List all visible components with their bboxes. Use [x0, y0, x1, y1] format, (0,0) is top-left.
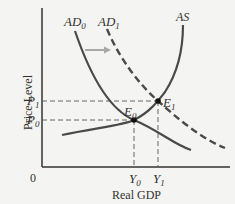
y-axis-label: Price Level: [21, 63, 36, 143]
shift-arrow: [85, 47, 111, 54]
guide-lines: [42, 101, 158, 167]
e1-label: E1: [163, 96, 175, 112]
ad0-label: AD0: [64, 15, 86, 31]
e0-label: E0: [124, 105, 136, 121]
y1-label: Y1: [153, 172, 165, 188]
y0-label: Y0: [129, 172, 141, 188]
x-axis-label: Real GDP: [112, 189, 161, 201]
as-curve: [62, 25, 183, 135]
origin-label: 0: [30, 172, 36, 184]
ad0-curve: [75, 31, 191, 150]
ad1-label: AD1: [98, 15, 120, 31]
equilibrium-e1-point: [155, 98, 161, 104]
as-label: AS: [176, 11, 189, 23]
